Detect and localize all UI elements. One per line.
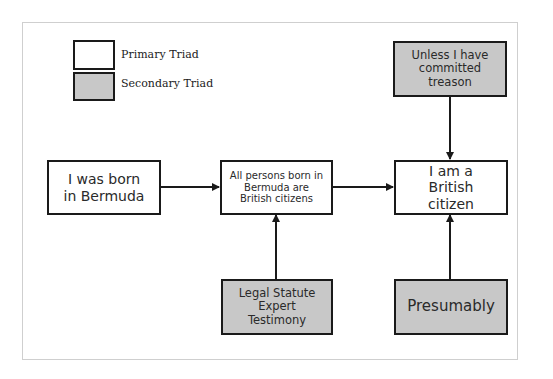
node-rebuttal: Unless I have committed treason bbox=[393, 41, 507, 97]
node-born-in-bermuda-text: I was born in Bermuda bbox=[63, 171, 145, 203]
node-claim-text: I am a British citizen bbox=[406, 163, 496, 211]
node-backing: Legal Statute Expert Testimony bbox=[221, 279, 333, 335]
node-born-in-bermuda: I was born in Bermuda bbox=[47, 160, 161, 215]
node-rebuttal-text: Unless I have committed treason bbox=[399, 49, 501, 89]
node-qualifier: Presumably bbox=[394, 279, 508, 335]
node-backing-text: Legal Statute Expert Testimony bbox=[237, 287, 317, 327]
node-statute: All persons born in Bermuda are British … bbox=[220, 160, 333, 215]
node-statute-text: All persons born in Bermuda are British … bbox=[228, 170, 325, 205]
node-qualifier-text: Presumably bbox=[407, 298, 495, 315]
node-claim: I am a British citizen bbox=[394, 160, 508, 215]
